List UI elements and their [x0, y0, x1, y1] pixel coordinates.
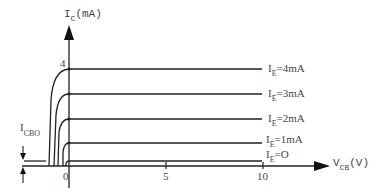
curves	[24, 69, 262, 166]
y-axis-label: I	[64, 8, 71, 20]
svg-text:VCB(V): VCB(V)	[333, 157, 369, 172]
x-tick-10: 10	[257, 170, 269, 182]
x-tick-0: 0	[63, 170, 69, 182]
svg-text:IE=4mA: IE=4mA	[268, 62, 305, 78]
svg-text:IE=1mA: IE=1mA	[266, 133, 303, 149]
curve-ie-4ma	[49, 69, 262, 166]
x-tick-5: 5	[163, 170, 169, 182]
curve-ie-3ma	[54, 94, 262, 166]
x-axis-label-sub: CB	[340, 163, 350, 172]
x-axis-arrow-icon	[314, 161, 330, 171]
svg-text:IC(mA): IC(mA)	[64, 8, 102, 23]
icbo-annotation: ICBO	[20, 121, 40, 183]
curve-ie-1ma	[63, 143, 262, 166]
arrow-down-icon	[20, 153, 26, 160]
arrow-up-icon	[20, 167, 26, 174]
curve-labels: IE=4mA IE=3mA IE=2mA IE=1mA IE=O	[266, 62, 305, 164]
svg-text:ICBO: ICBO	[20, 121, 40, 138]
x-axis-unit: (V)	[349, 157, 369, 169]
y-axis-arrow-icon	[64, 25, 74, 40]
svg-text:IE=2mA: IE=2mA	[268, 112, 305, 128]
y-tick-4: 4	[60, 57, 66, 69]
chart-canvas: IC(mA) VCB(V) 0 5 10 4 IE=4mA IE=3mA IE=…	[0, 0, 379, 195]
svg-text:IE=3mA: IE=3mA	[268, 87, 305, 103]
svg-text:IE=O: IE=O	[266, 148, 289, 164]
curve-ie-0	[66, 161, 262, 166]
y-axis-unit: (mA)	[75, 8, 101, 20]
